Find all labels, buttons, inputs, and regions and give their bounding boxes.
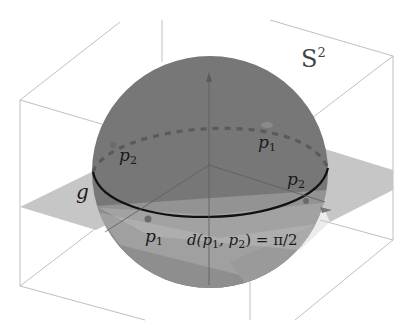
sphere-diagram <box>0 0 410 336</box>
p2-front-sub: 2 <box>298 178 305 191</box>
point-p2-front <box>303 198 309 204</box>
geodesic-label: g <box>76 182 89 202</box>
p1-back-sub: 1 <box>269 141 276 154</box>
distance-sub1: 1 <box>212 238 219 251</box>
p1-front-letter: p <box>145 226 156 246</box>
p2-back-sub: 2 <box>130 154 137 167</box>
p2-back-letter: p <box>119 145 130 165</box>
distance-label: d(p1, p2) = π/2 <box>187 233 298 250</box>
point-p2-back <box>110 142 116 148</box>
sphere-figure: S2 g p2 p1 p2 p1 d(p1, p2) = π/2 <box>0 0 410 336</box>
p2-back-label: p2 <box>119 147 137 166</box>
title-text: S <box>301 45 317 73</box>
p1-front-sub: 1 <box>156 235 163 248</box>
title-superscript: 2 <box>317 45 325 60</box>
sphere-title-label: S2 <box>301 46 326 71</box>
distance-mid: , p <box>219 231 238 249</box>
distance-suffix: ) = π/2 <box>245 231 297 249</box>
point-p1-front <box>145 216 152 223</box>
p1-front-label: p1 <box>145 228 163 247</box>
p1-back-letter: p <box>258 132 269 152</box>
p2-front-letter: p <box>287 169 298 189</box>
p1-back-label: p1 <box>258 134 276 153</box>
distance-prefix: d(p <box>187 231 212 249</box>
point-p1-back <box>261 122 273 128</box>
p2-front-label: p2 <box>287 171 305 190</box>
